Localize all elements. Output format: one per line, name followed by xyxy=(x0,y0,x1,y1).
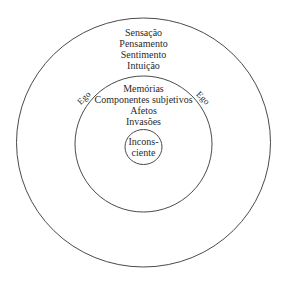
label-pensamento: Pensamento xyxy=(119,38,167,49)
label-inconsciente-2: ciente xyxy=(132,147,156,158)
label-inconsciente-1: Incons- xyxy=(129,136,159,147)
label-memorias: Memórias xyxy=(123,83,164,94)
label-componentes-subjetivos: Componentes subjetivos xyxy=(94,94,192,105)
label-invasoes: Invasões xyxy=(126,116,161,127)
outer-ring-labels: Sensação Pensamento Sentimento Intuição xyxy=(119,27,167,71)
label-sensacao: Sensação xyxy=(125,27,162,38)
psyche-diagram: Sensação Pensamento Sentimento Intuição … xyxy=(0,0,287,284)
ego-label-left: Ego xyxy=(75,89,93,107)
label-sentimento: Sentimento xyxy=(121,49,167,60)
label-intuicao: Intuição xyxy=(127,60,160,71)
label-afetos: Afetos xyxy=(130,105,157,116)
middle-ring-labels: Memórias Componentes subjetivos Afetos I… xyxy=(94,83,192,127)
center-label: Incons- ciente xyxy=(129,136,159,158)
ego-label-right: Ego xyxy=(194,89,212,107)
